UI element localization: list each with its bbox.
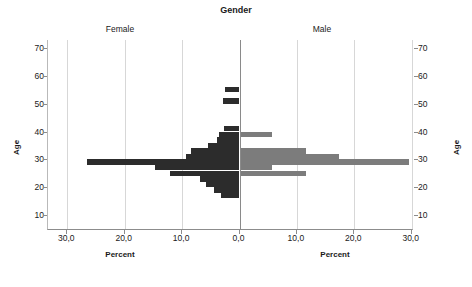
y-tick-mark [43, 215, 47, 216]
y-tick-label-left-20: 20 [22, 182, 44, 192]
y-tick-label-right-20: 20 [418, 182, 440, 192]
bar-female-age-55 [225, 87, 240, 92]
y-tick-mark [43, 76, 47, 77]
bar-female-age-51 [223, 98, 240, 103]
x-axis-title-right: Percent [290, 250, 380, 259]
y-tick-mark [414, 104, 418, 105]
x-tick-mark [411, 230, 412, 234]
panel-label-female: Female [80, 24, 160, 34]
y-tick-label-left-60: 60 [22, 71, 44, 81]
y-tick-label-left-30: 30 [22, 154, 44, 164]
x-tick-label-6: 30,0 [391, 233, 431, 243]
x-tick-mark [124, 230, 125, 234]
y-tick-mark [43, 48, 47, 49]
gridline [67, 40, 68, 229]
chart-title: Gender [0, 5, 472, 15]
bar-female-age-21 [206, 182, 240, 187]
y-tick-label-left-70: 70 [22, 43, 44, 53]
x-tick-mark [296, 230, 297, 234]
y-tick-mark [414, 159, 418, 160]
bar-male-age-27 [240, 165, 272, 170]
y-tick-label-right-70: 70 [418, 43, 440, 53]
x-axis-title-left: Percent [75, 250, 165, 259]
x-tick-label-0: 30,0 [46, 233, 86, 243]
y-tick-mark [414, 215, 418, 216]
x-tick-label-4: 10,0 [276, 233, 316, 243]
plot-area [47, 40, 413, 230]
bar-female-age-35 [208, 143, 240, 148]
y-tick-mark [414, 132, 418, 133]
y-tick-label-right-50: 50 [418, 99, 440, 109]
y-tick-mark [43, 159, 47, 160]
bar-male-age-25 [240, 171, 306, 176]
bar-female-age-17 [221, 193, 240, 198]
bar-female-age-27 [155, 165, 240, 170]
y-tick-label-right-60: 60 [418, 71, 440, 81]
gridline [297, 40, 298, 229]
y-tick-mark [43, 187, 47, 188]
population-pyramid-chart: Gender Female Male Age Age 7070606050504… [0, 0, 472, 287]
gridline [125, 40, 126, 229]
x-tick-mark [353, 230, 354, 234]
y-tick-mark [43, 104, 47, 105]
y-axis-title-right: Age [452, 140, 461, 155]
y-tick-mark [414, 48, 418, 49]
y-tick-label-right-40: 40 [418, 127, 440, 137]
y-tick-label-left-40: 40 [22, 127, 44, 137]
y-tick-label-left-10: 10 [22, 210, 44, 220]
y-axis-title-left: Age [12, 140, 21, 155]
x-tick-mark [181, 230, 182, 234]
y-tick-mark [43, 132, 47, 133]
x-tick-mark [66, 230, 67, 234]
bar-male-age-39 [240, 132, 273, 137]
x-tick-label-3: 0,0 [219, 233, 259, 243]
gridline [182, 40, 183, 229]
y-tick-mark [414, 187, 418, 188]
center-axis-line [240, 40, 241, 229]
y-tick-label-right-30: 30 [418, 154, 440, 164]
y-tick-label-left-50: 50 [22, 99, 44, 109]
gridline [354, 40, 355, 229]
gridline [412, 40, 413, 229]
y-tick-mark [414, 76, 418, 77]
x-tick-label-1: 20,0 [104, 233, 144, 243]
x-tick-mark [239, 230, 240, 234]
panel-label-male: Male [282, 24, 362, 34]
y-tick-label-right-10: 10 [418, 210, 440, 220]
x-tick-label-5: 20,0 [333, 233, 373, 243]
x-tick-label-2: 10,0 [161, 233, 201, 243]
